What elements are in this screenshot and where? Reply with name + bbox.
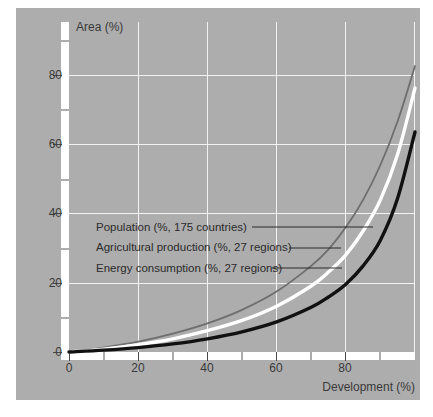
legend-label-agricultural-production: Agricultural production (%, 27 regions) bbox=[96, 241, 292, 253]
curve-population bbox=[69, 66, 415, 352]
legend-label-population: Population (%, 175 countries) bbox=[96, 221, 247, 233]
curve-agricultural-production bbox=[69, 88, 415, 352]
legend-label-energy-consumption: Energy consumption (%, 27 regions) bbox=[96, 262, 282, 274]
chart-figure: 80 60 40 20 0 0 20 40 60 80 Area (%) Dev… bbox=[0, 0, 433, 417]
series-curves bbox=[0, 0, 433, 417]
